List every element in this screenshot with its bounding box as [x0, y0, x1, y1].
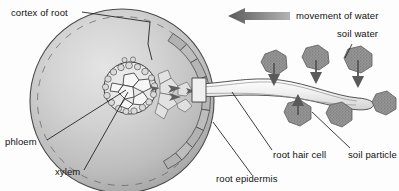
root-hair-base-cell	[192, 78, 206, 102]
movement-of-water-arrow	[228, 8, 290, 24]
label-cortex-of-root: cortex of root	[11, 8, 68, 18]
soil-particle	[372, 91, 396, 115]
label-soil-water: soil water	[337, 29, 378, 39]
label-soil-particle: soil particle	[348, 150, 397, 160]
label-movement-of-water: movement of water	[296, 11, 378, 21]
label-root-epidermis: root epidermis	[216, 174, 278, 184]
label-xylem: xylem	[55, 167, 80, 177]
leader-root-epidermis	[213, 122, 252, 175]
label-phloem: phloem	[5, 137, 37, 147]
root-cross-section	[30, 9, 214, 191]
label-root-hair-cell: root hair cell	[273, 150, 326, 160]
leader-root-hair-cell	[232, 92, 272, 150]
diagram-canvas: cortex of root phloem xylem root epiderm…	[0, 0, 399, 191]
